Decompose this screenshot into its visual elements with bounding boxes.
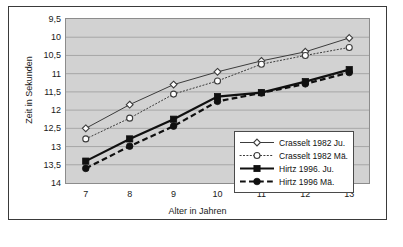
legend-label: Hirtz 1996. Ju.	[276, 164, 334, 174]
legend-key-circle-filled	[238, 175, 276, 188]
y-axis-tick-labels: 9,51010,51111,51212,51313,514	[9, 18, 61, 184]
data-point-circle-open	[346, 44, 352, 50]
y-tick-label: 11	[13, 69, 61, 79]
legend-item: Crasselt 1982 Mä.	[238, 149, 348, 162]
data-point-diamond-open	[254, 139, 261, 146]
chart-figure: Zeit in Sekunden 9,51010,51111,51212,513…	[8, 6, 387, 220]
legend-item: Crasselt 1982 Ju.	[238, 136, 348, 149]
y-tick-label: 13	[13, 142, 61, 152]
legend-key-circle-open	[238, 149, 276, 162]
legend-label: Hirtz 1996 Mä.	[276, 177, 334, 187]
legend-label: Crasselt 1982 Ju.	[276, 138, 345, 148]
data-point-circle-filled	[170, 123, 177, 130]
legend-item: Hirtz 1996. Ju.	[238, 162, 348, 175]
data-point-circle-filled	[254, 178, 261, 185]
x-axis-title: Alter in Jahren	[9, 206, 386, 216]
data-point-circle-open	[83, 136, 89, 142]
data-point-circle-open	[254, 153, 260, 159]
data-point-circle-open	[127, 115, 133, 121]
y-tick-label: 11,5	[13, 87, 61, 97]
y-tick-label: 10,5	[13, 50, 61, 60]
x-tick-label: 9	[171, 189, 176, 199]
y-tick-label: 12,5	[13, 123, 61, 133]
data-point-square-filled	[254, 165, 260, 171]
data-point-square-filled	[83, 158, 89, 164]
data-point-diamond-open	[214, 68, 221, 75]
data-point-diamond-open	[126, 101, 133, 108]
data-point-circle-open	[215, 78, 221, 84]
data-point-square-filled	[170, 116, 176, 122]
y-tick-label: 12	[13, 105, 61, 115]
x-tick-label: 7	[83, 189, 88, 199]
data-point-diamond-open	[82, 125, 89, 132]
data-point-diamond-open	[170, 81, 177, 88]
data-point-circle-filled	[214, 98, 221, 105]
data-point-circle-open	[258, 61, 264, 67]
data-point-circle-filled	[82, 165, 89, 172]
y-tick-label: 14	[13, 178, 61, 188]
legend-label: Crasselt 1982 Mä.	[276, 151, 348, 161]
legend-key-square-filled	[238, 162, 276, 175]
y-tick-label: 9,5	[13, 14, 61, 24]
data-point-circle-filled	[258, 90, 265, 97]
data-point-circle-open	[171, 91, 177, 97]
x-tick-label: 10	[212, 189, 222, 199]
chart-legend: Crasselt 1982 Ju.Crasselt 1982 Mä.Hirtz …	[234, 131, 354, 193]
data-point-circle-open	[302, 52, 308, 58]
x-tick-label: 8	[127, 189, 132, 199]
legend-key-diamond-open	[238, 136, 276, 149]
data-point-circle-filled	[126, 143, 133, 150]
data-point-diamond-open	[346, 35, 353, 42]
y-tick-label: 13,5	[13, 160, 61, 170]
legend-item: Hirtz 1996 Mä.	[238, 175, 348, 188]
data-point-circle-filled	[302, 81, 309, 88]
data-point-circle-filled	[346, 69, 353, 76]
data-point-square-filled	[127, 136, 133, 142]
y-tick-label: 10	[13, 32, 61, 42]
